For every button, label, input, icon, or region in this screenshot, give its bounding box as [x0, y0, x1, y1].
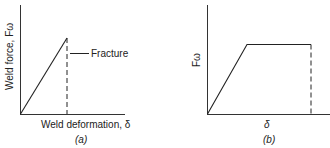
- panel-b-caption: (b): [263, 134, 275, 145]
- panel-b: Fω δ (b): [191, 5, 330, 145]
- panel-a-fracture-label: Fracture: [91, 48, 129, 59]
- panel-a-elastic-line: [21, 38, 68, 114]
- panel-b-x-axis-label: δ: [264, 119, 270, 130]
- panel-b-y-axis-label: Fω: [191, 53, 202, 67]
- panel-b-force-curve: [208, 45, 312, 115]
- weld-force-deformation-diagram: Fracture Weld force, Fω Weld deformation…: [0, 0, 330, 148]
- panel-a-x-axis-label: Weld deformation, δ: [41, 119, 131, 130]
- panel-a: Fracture Weld force, Fω Weld deformation…: [4, 5, 131, 145]
- panel-a-caption: (a): [75, 134, 87, 145]
- panel-a-y-axis-label: Weld force, Fω: [4, 23, 15, 90]
